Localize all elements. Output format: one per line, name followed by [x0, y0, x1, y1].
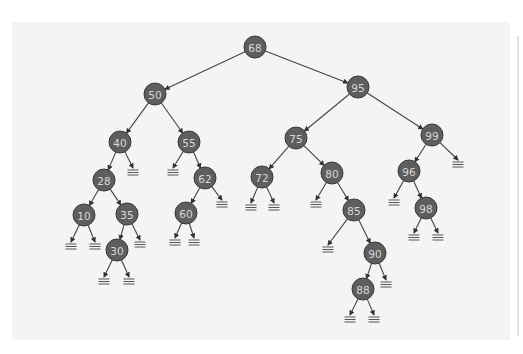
- binary-tree: 6850954055286210356030759972809685989088: [0, 0, 523, 354]
- tree-edge: [89, 190, 98, 206]
- node-label: 62: [198, 173, 211, 185]
- tree-edge: [110, 189, 121, 205]
- null-pointer-icon: [311, 182, 327, 207]
- tree-edge: [269, 146, 289, 168]
- null-pointer-icon: [168, 151, 184, 175]
- node-label: 99: [425, 130, 438, 142]
- null-pointer-icon: [189, 223, 200, 245]
- null-pointer-icon: [431, 218, 444, 240]
- tree-node-90: 90: [364, 242, 386, 264]
- null-pointer-icon: [121, 260, 134, 284]
- node-label: 40: [113, 137, 126, 149]
- tree-edge: [126, 103, 148, 133]
- null-pointer-icon: [379, 263, 391, 287]
- tree-edge: [120, 225, 124, 240]
- node-label: 68: [248, 42, 261, 54]
- tree-node-35: 35: [116, 203, 138, 225]
- node-label: 80: [325, 168, 338, 180]
- null-pointer-icon: [367, 299, 379, 322]
- tree-node-40: 40: [109, 131, 131, 153]
- node-label: 55: [182, 137, 195, 149]
- tree-node-62: 62: [194, 167, 216, 189]
- null-pointer-icon: [99, 260, 113, 284]
- null-pointer-icon: [88, 225, 100, 249]
- null-pointer-icon: [267, 187, 280, 210]
- tree-edge: [366, 263, 371, 278]
- node-label: 98: [419, 203, 432, 215]
- node-label: 35: [120, 209, 133, 221]
- null-pointer-icon: [132, 224, 146, 247]
- node-label: 28: [97, 175, 110, 187]
- tree-node-99: 99: [421, 124, 443, 146]
- null-pointer-icon: [345, 299, 359, 322]
- node-label: 85: [347, 205, 360, 217]
- tree-edge: [265, 51, 347, 83]
- tree-edge: [304, 146, 324, 166]
- null-pointer-icon: [440, 143, 464, 167]
- tree-edge: [359, 220, 370, 243]
- node-label: 50: [148, 89, 161, 101]
- tree-node-95: 95: [347, 76, 369, 98]
- tree-node-88: 88: [352, 278, 374, 300]
- tree-edge: [338, 182, 349, 200]
- null-pointer-icon: [246, 187, 258, 210]
- tree-node-75: 75: [285, 127, 307, 149]
- tree-edge: [304, 94, 349, 131]
- node-label: 72: [255, 172, 268, 184]
- tree-node-96: 96: [398, 160, 420, 182]
- tree-edge: [415, 144, 426, 161]
- tree-edge: [414, 181, 422, 198]
- tree-node-72: 72: [251, 166, 273, 188]
- tree-node-80: 80: [321, 162, 343, 184]
- tree-edge: [367, 93, 423, 129]
- node-label: 30: [110, 245, 123, 257]
- tree-node-30: 30: [106, 239, 128, 261]
- nodes-layer: 6850954055286210356030759972809685989088: [73, 36, 443, 300]
- null-pointer-icon: [389, 181, 404, 205]
- node-label: 88: [356, 284, 369, 296]
- node-label: 96: [402, 166, 416, 178]
- tree-node-10: 10: [73, 204, 95, 226]
- tree-node-55: 55: [178, 131, 200, 153]
- tree-edge: [193, 152, 200, 168]
- null-pointer-icon: [66, 225, 80, 249]
- node-label: 75: [289, 133, 302, 145]
- node-label: 60: [179, 208, 192, 220]
- tree-node-68: 68: [244, 36, 266, 58]
- null-pointer-icon: [409, 218, 422, 240]
- node-label: 95: [351, 82, 364, 94]
- tree-node-98: 98: [415, 197, 437, 219]
- tree-edge: [165, 52, 245, 90]
- tree-node-85: 85: [343, 199, 365, 221]
- node-label: 10: [77, 210, 90, 222]
- tree-edge: [108, 152, 115, 170]
- null-pointer-icon: [323, 219, 348, 252]
- tree-node-60: 60: [175, 202, 197, 224]
- tree-node-50: 50: [144, 83, 166, 105]
- node-label: 90: [368, 248, 381, 260]
- null-pointer-icon: [125, 152, 139, 175]
- tree-edge: [161, 103, 182, 133]
- tree-node-28: 28: [93, 169, 115, 191]
- tree-edge: [191, 188, 200, 204]
- null-pointer-icon: [212, 187, 228, 207]
- null-pointer-icon: [170, 223, 182, 245]
